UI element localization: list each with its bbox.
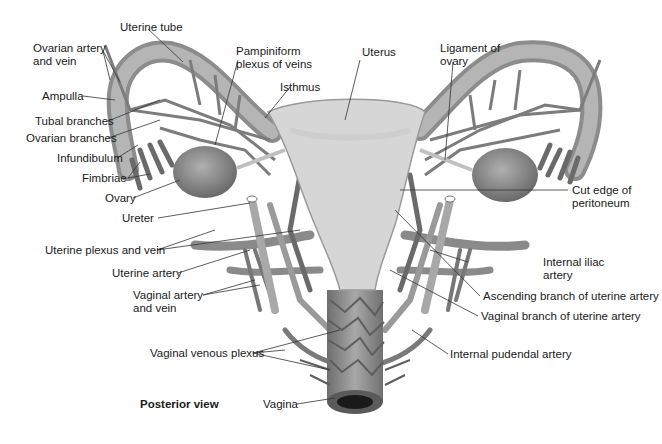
- uterus-illustration: [0, 0, 662, 444]
- label-internal-iliac-artery-line2: artery: [543, 269, 572, 282]
- label-internal-pudendal-artery: Internal pudendal artery: [450, 348, 571, 361]
- label-vaginal-venous-plexus: Vaginal venous plexus: [150, 347, 264, 360]
- ovary-right: [472, 148, 538, 202]
- ovary-left: [173, 146, 237, 198]
- label-uterine-tube: Uterine tube: [120, 21, 183, 34]
- label-cut-edge-peritoneum: Cut edge of: [572, 184, 631, 197]
- label-pampiniform-plexus-line2: plexus of veins: [236, 58, 312, 71]
- view-caption: Posterior view: [140, 398, 219, 411]
- label-vaginal-branch: Vaginal branch of uterine artery: [481, 310, 641, 323]
- label-ligament-of-ovary-line2: ovary: [440, 55, 468, 68]
- label-cut-edge-peritoneum-line2: peritoneum: [572, 197, 630, 210]
- label-ampulla: Ampulla: [42, 90, 84, 103]
- label-pampiniform-plexus: Pampiniform: [236, 45, 301, 58]
- label-internal-iliac-artery: Internal iliac: [543, 256, 604, 269]
- label-ascending-branch: Ascending branch of uterine artery: [483, 290, 659, 303]
- label-ovarian-artery-vein: Ovarian artery: [33, 42, 106, 55]
- label-ovarian-artery-vein-line2: and vein: [33, 55, 76, 68]
- anatomy-diagram: Uterine tube Ovarian artery and vein Amp…: [0, 0, 662, 444]
- label-uterine-artery: Uterine artery: [112, 267, 182, 280]
- label-vagina: Vagina: [263, 398, 298, 411]
- label-ligament-of-ovary: Ligament of: [440, 42, 500, 55]
- label-infundibulum: Infundibulum: [57, 152, 123, 165]
- label-isthmus: Isthmus: [280, 81, 320, 94]
- label-ovary: Ovary: [105, 192, 136, 205]
- label-uterus: Uterus: [362, 46, 396, 59]
- label-fimbriae: Fimbriae: [82, 172, 127, 185]
- label-tubal-branches: Tubal branches: [35, 115, 114, 128]
- label-ovarian-branches: Ovarian branches: [26, 132, 117, 145]
- label-ureter: Ureter: [122, 212, 154, 225]
- label-vaginal-artery-vein-line2: and vein: [133, 302, 176, 315]
- label-uterine-plexus-vein: Uterine plexus and vein: [45, 244, 165, 257]
- label-vaginal-artery-vein: Vaginal artery: [133, 289, 203, 302]
